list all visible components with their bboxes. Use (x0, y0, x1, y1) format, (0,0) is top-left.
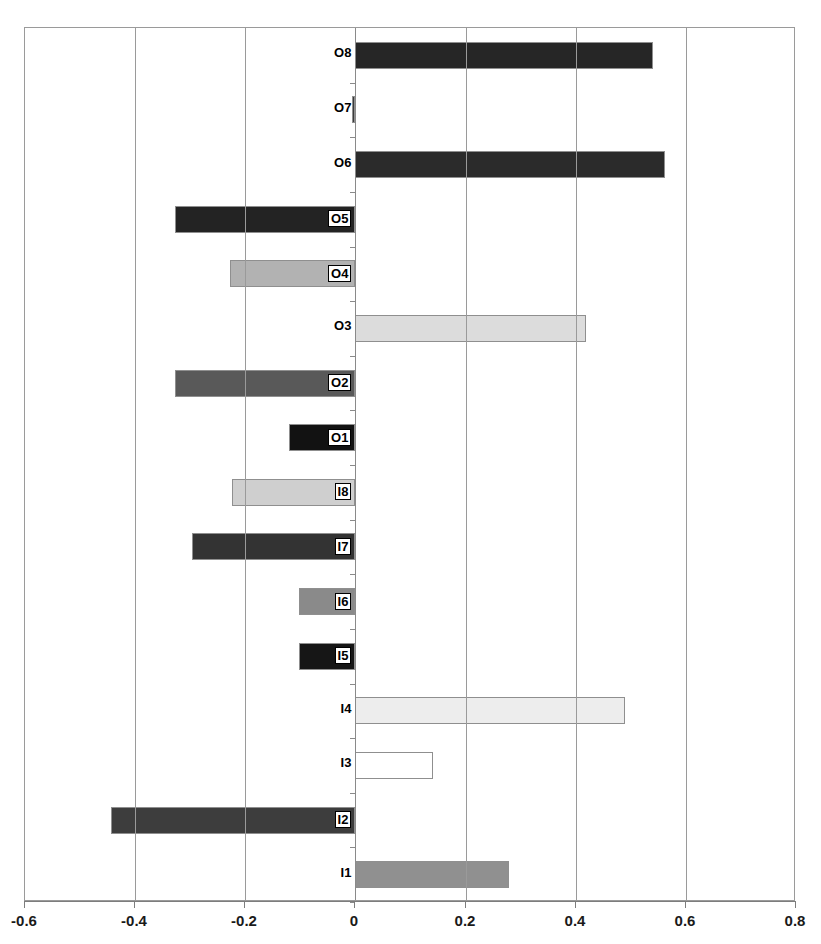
gridline (466, 28, 467, 900)
y-axis-tick (350, 356, 355, 357)
y-axis-tick (350, 192, 355, 193)
gridline (576, 28, 577, 900)
bar-o8 (355, 42, 652, 69)
x-axis-tick-label: 0.2 (455, 912, 476, 929)
y-axis-tick (350, 410, 355, 411)
bar-i3 (355, 752, 432, 779)
category-label-o6: O6 (334, 156, 351, 169)
gridline (245, 28, 246, 900)
y-axis-tick (350, 83, 355, 84)
category-label-i4: I4 (341, 702, 352, 715)
y-axis-tick (350, 137, 355, 138)
y-axis-tick (350, 684, 355, 685)
bar-i1 (355, 861, 508, 888)
x-axis-tick-label: -0.2 (231, 912, 257, 929)
category-label-o1: O1 (328, 429, 351, 446)
bar-chart: -0.6-0.4-0.200.20.40.60.8 O8O7O6O5O4O3O2… (0, 0, 821, 944)
y-axis-tick (350, 465, 355, 466)
y-axis-tick (350, 247, 355, 248)
x-axis-tick-label: 0.6 (675, 912, 696, 929)
bar-i7 (192, 533, 355, 560)
plot-area (24, 27, 795, 901)
category-label-i8: I8 (335, 483, 352, 500)
x-axis-tick (575, 901, 576, 908)
gridline (686, 28, 687, 900)
category-label-i3: I3 (341, 756, 352, 769)
category-label-i5: I5 (335, 647, 352, 664)
category-label-o5: O5 (328, 210, 351, 227)
category-label-i7: I7 (335, 538, 352, 555)
x-axis-tick (465, 901, 466, 908)
x-axis-tick (354, 901, 355, 908)
category-label-i6: I6 (335, 593, 352, 610)
category-label-o4: O4 (328, 265, 351, 282)
x-axis-tick (795, 901, 796, 908)
x-axis-tick-label: 0.8 (785, 912, 806, 929)
x-axis-tick-label: -0.6 (11, 912, 37, 929)
x-axis-line (24, 901, 795, 902)
bar-i2 (111, 807, 355, 834)
x-axis-tick (685, 901, 686, 908)
y-axis-tick (350, 738, 355, 739)
x-axis-tick-label: 0 (350, 912, 358, 929)
bar-i4 (355, 697, 624, 724)
category-label-o2: O2 (328, 374, 351, 391)
y-axis-tick (350, 520, 355, 521)
y-axis-tick (350, 793, 355, 794)
category-label-o8: O8 (334, 46, 351, 59)
category-label-i2: I2 (335, 811, 352, 828)
zero-line (355, 28, 356, 900)
y-axis-tick (350, 847, 355, 848)
category-label-i1: I1 (341, 866, 352, 879)
y-axis-tick (350, 629, 355, 630)
x-axis-tick-label: -0.4 (121, 912, 147, 929)
x-axis-tick (24, 901, 25, 908)
bar-o6 (355, 151, 665, 178)
x-axis-tick (134, 901, 135, 908)
gridline (135, 28, 136, 900)
category-label-o3: O3 (334, 319, 351, 332)
category-label-o7: O7 (334, 101, 351, 114)
y-axis-tick (350, 301, 355, 302)
bar-o3 (355, 315, 585, 342)
y-axis-tick (350, 574, 355, 575)
x-axis-tick (244, 901, 245, 908)
x-axis-tick-label: 0.4 (565, 912, 586, 929)
bars-layer (25, 28, 794, 900)
